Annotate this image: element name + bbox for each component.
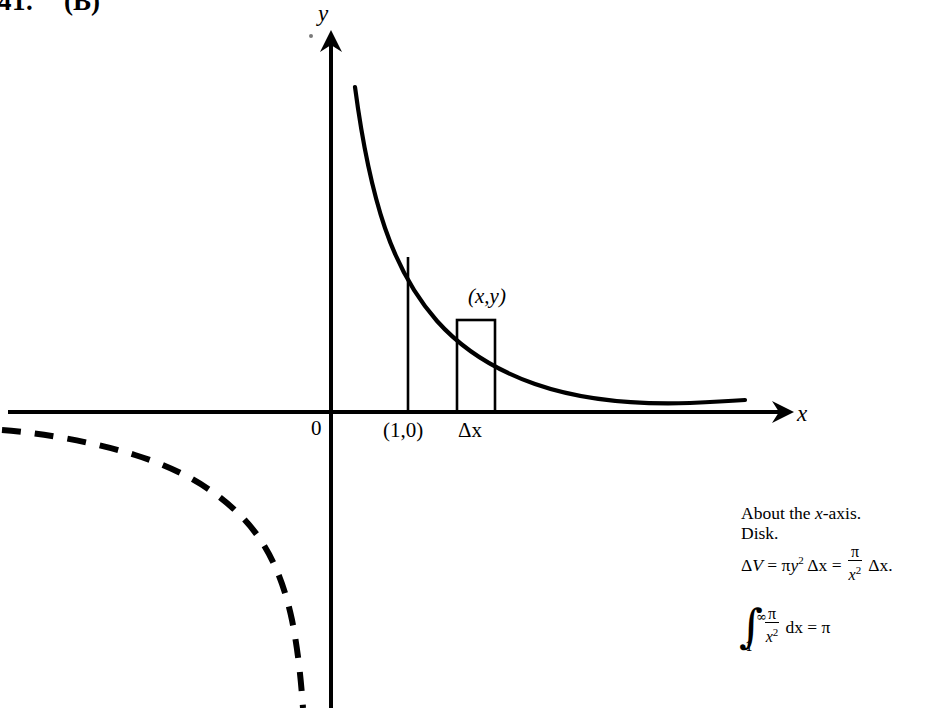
curve-solid-branch [355, 87, 745, 403]
integral-equals-sign: = [803, 617, 822, 637]
equals-sign-1: = [763, 555, 782, 575]
point-label-x-y: (x,y) [468, 286, 506, 307]
y-axis-label: y [318, 2, 328, 25]
integrand-denominator-exponent: 2 [773, 626, 779, 638]
integral-result-pi: π [822, 617, 831, 637]
annotation-volume-equation: ΔV = πy2 Δx = πx2 Δx. [741, 544, 893, 583]
differential-dx: dx [785, 617, 803, 637]
delta-x-term-1: Δx [807, 555, 827, 575]
definite-integral-expression: ∫∞1πx2 dx = π [739, 606, 830, 645]
annotation-block: About the x-axis. Disk. ΔV = πy2 Δx = πx… [741, 503, 893, 583]
figure-page: 41. (B) y x 0 (1,0) Δx (x,y) About the x… [0, 0, 938, 708]
equals-sign-2: = [827, 555, 846, 575]
origin-label: 0 [311, 418, 322, 439]
integral-upper-limit: ∞ [756, 610, 767, 623]
integrand-denominator-x-squared: x2 [765, 623, 779, 645]
annotation-about-post: -axis. [823, 503, 861, 523]
coordinate-graph [0, 0, 938, 708]
delta-symbol-1: Δ [741, 555, 752, 575]
delta-x-term-2: Δx. [868, 555, 892, 575]
denominator-x: x [849, 566, 856, 583]
denominator-exponent: 2 [856, 564, 862, 576]
x-axis-label: x [797, 402, 807, 425]
integral-sign: ∫∞1 [739, 612, 763, 640]
exponent-2-a: 2 [798, 554, 804, 566]
delta-x-label: Δx [458, 420, 482, 441]
representative-rectangle [457, 320, 495, 412]
volume-variable: V [752, 555, 763, 575]
fraction-pi-over-x-squared: πx2 [848, 544, 862, 583]
integrand-denominator-x: x [766, 628, 773, 645]
annotation-line-about-axis: About the x-axis. [741, 503, 893, 523]
annotation-about-pre: About the [741, 503, 815, 523]
integrand-numerator-pi: π [765, 606, 779, 623]
fraction-denominator-x-squared: x2 [848, 561, 862, 583]
integral-lower-limit: 1 [745, 640, 753, 653]
point-label-1-0: (1,0) [383, 420, 423, 441]
scan-speck [309, 34, 313, 38]
curve-dashed-branch [2, 430, 303, 708]
annotation-about-var: x [815, 503, 823, 523]
fraction-numerator-pi: π [848, 544, 862, 561]
integrand-fraction: πx2 [765, 606, 779, 645]
annotation-line-method: Disk. [741, 523, 893, 543]
